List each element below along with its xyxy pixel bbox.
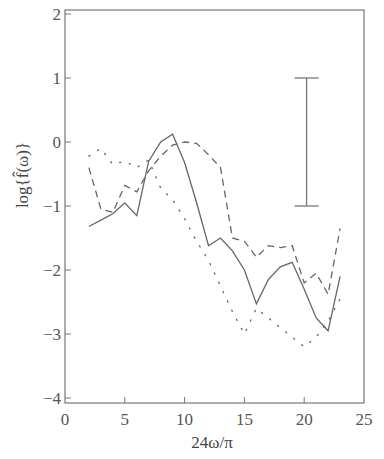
x-axis-label: 24ω/π	[191, 433, 233, 452]
data-series	[89, 134, 340, 346]
x-axis-ticks: 0510152025	[61, 397, 373, 429]
y-tick-label: −2	[43, 261, 61, 280]
series-dotted-line	[89, 148, 340, 346]
plot-border	[65, 10, 364, 403]
y-axis-ticks: 210−1−2−3−4	[43, 5, 71, 408]
y-tick-label: 1	[53, 69, 62, 88]
x-tick-label: 0	[61, 410, 70, 429]
y-tick-label: −3	[43, 325, 61, 344]
y-tick-label: −4	[43, 389, 62, 408]
y-axis-label: log{f̂(ω)}	[12, 142, 32, 208]
x-tick-label: 5	[121, 410, 130, 429]
x-tick-label: 20	[296, 410, 313, 429]
spectrum-chart: 210−1−2−3−4 0510152025 24ω/π log{f̂(ω)}	[0, 0, 384, 459]
y-tick-label: −1	[43, 197, 61, 216]
error-bar-annotation	[295, 78, 319, 206]
plot-frame	[65, 10, 364, 403]
series-solid-line	[89, 134, 340, 330]
y-tick-label: 0	[53, 133, 62, 152]
series-dashed-line	[89, 142, 340, 294]
x-tick-label: 10	[176, 410, 193, 429]
x-tick-label: 25	[356, 410, 373, 429]
x-tick-label: 15	[236, 410, 253, 429]
y-tick-label: 2	[53, 5, 62, 24]
